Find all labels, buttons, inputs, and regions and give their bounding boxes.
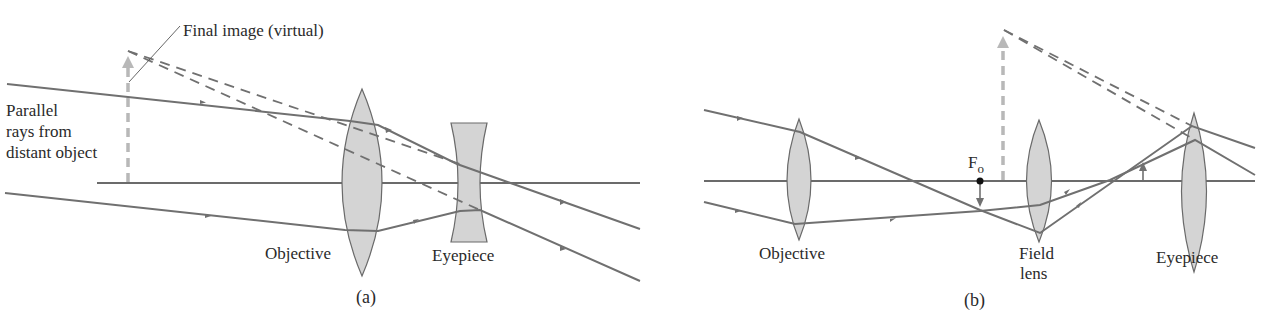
- virtual-ray-extension: [1004, 30, 1192, 126]
- virtual-ray-extension: [128, 51, 480, 210]
- intermediate-image-arrowhead-icon: [976, 198, 984, 207]
- parallel-rays-label-line1: Parallel: [6, 101, 58, 120]
- eyepiece-label: Eyepiece: [1156, 248, 1218, 267]
- eyepiece-label: Eyepiece: [432, 246, 494, 265]
- panel-a-galilean-telescope: Final image (virtual) Parallel rays from…: [5, 21, 640, 308]
- objective-lens: [787, 119, 811, 240]
- field-lens-label-line2: lens: [1020, 264, 1047, 283]
- objective-label: Objective: [265, 244, 331, 263]
- ray-arrow-icon: [560, 199, 566, 205]
- ray-arrow-icon: [200, 100, 206, 104]
- parallel-rays-label-line2: rays from: [6, 122, 72, 141]
- final-image-arrowhead-icon: [997, 36, 1009, 48]
- objective-lens: [342, 89, 382, 276]
- virtual-ray-extension: [1004, 30, 1195, 140]
- parallel-rays-label-line3: distant object: [6, 143, 97, 162]
- focal-point-dot: [977, 178, 984, 185]
- objective-label: Objective: [759, 244, 825, 263]
- field-lens: [1027, 120, 1052, 242]
- telescope-diagrams: Final image (virtual) Parallel rays from…: [0, 0, 1261, 322]
- lower-ray: [5, 193, 640, 281]
- virtual-ray-extension: [128, 51, 460, 164]
- final-image-arrowhead-icon: [122, 56, 134, 68]
- ray-arrow-icon: [890, 218, 896, 222]
- final-image-label: Final image (virtual): [183, 21, 324, 40]
- panel-b-caption: (b): [964, 290, 985, 311]
- panel-b-terrestrial-telescope: Fo Objective Field lens Eyepiece (b): [704, 30, 1255, 311]
- focal-point-label: Fo: [968, 153, 984, 176]
- field-lens-label-line1: Field: [1019, 244, 1054, 263]
- panel-a-caption: (a): [356, 287, 376, 308]
- upper-ray: [7, 84, 640, 229]
